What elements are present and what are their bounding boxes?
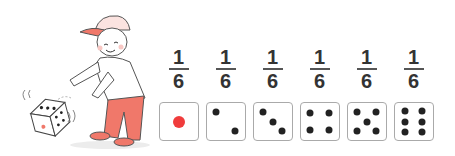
pip [373, 127, 380, 134]
pip [326, 110, 333, 117]
boy-throwing-die-illustration [0, 0, 160, 156]
pip [354, 127, 361, 134]
fraction: 1 6 [263, 48, 283, 98]
denominator: 6 [267, 72, 278, 91]
pip [307, 126, 314, 133]
denominator: 6 [314, 72, 325, 91]
fraction: 1 6 [169, 48, 189, 98]
numerator: 1 [408, 48, 419, 67]
outcome-5: 1 6 [346, 48, 387, 141]
numerator: 1 [173, 48, 184, 67]
die-face-3 [253, 102, 293, 141]
pip [307, 110, 314, 117]
pip [363, 118, 370, 125]
fraction: 1 6 [404, 48, 424, 98]
pip [326, 126, 333, 133]
pip [173, 116, 185, 128]
pip [260, 109, 267, 116]
pip [279, 127, 286, 134]
pip [232, 127, 239, 134]
pip [418, 108, 425, 115]
probability-row: 1 6 1 6 1 6 1 [158, 48, 434, 141]
fraction: 1 6 [357, 48, 377, 98]
pip [213, 109, 220, 116]
numerator: 1 [267, 48, 278, 67]
numerator: 1 [220, 48, 231, 67]
denominator: 6 [408, 72, 419, 91]
die-face-1 [159, 102, 199, 141]
pip [354, 109, 361, 116]
outcome-2: 1 6 [205, 48, 246, 141]
die-face-4 [300, 102, 340, 141]
denominator: 6 [361, 72, 372, 91]
outcome-4: 1 6 [299, 48, 340, 141]
die-face-2 [206, 102, 246, 141]
die-face-5 [347, 102, 387, 141]
fraction: 1 6 [216, 48, 236, 98]
pip [418, 118, 425, 125]
denominator: 6 [220, 72, 231, 91]
denominator: 6 [173, 72, 184, 91]
die-face-6 [394, 102, 434, 141]
fraction: 1 6 [310, 48, 330, 98]
numerator: 1 [361, 48, 372, 67]
numerator: 1 [314, 48, 325, 67]
pip [402, 118, 409, 125]
pip [402, 108, 409, 115]
pip [373, 109, 380, 116]
pip [418, 128, 425, 135]
outcome-1: 1 6 [158, 48, 199, 141]
pip [402, 128, 409, 135]
outcome-6: 1 6 [393, 48, 434, 141]
pip [269, 118, 276, 125]
outcome-3: 1 6 [252, 48, 293, 141]
